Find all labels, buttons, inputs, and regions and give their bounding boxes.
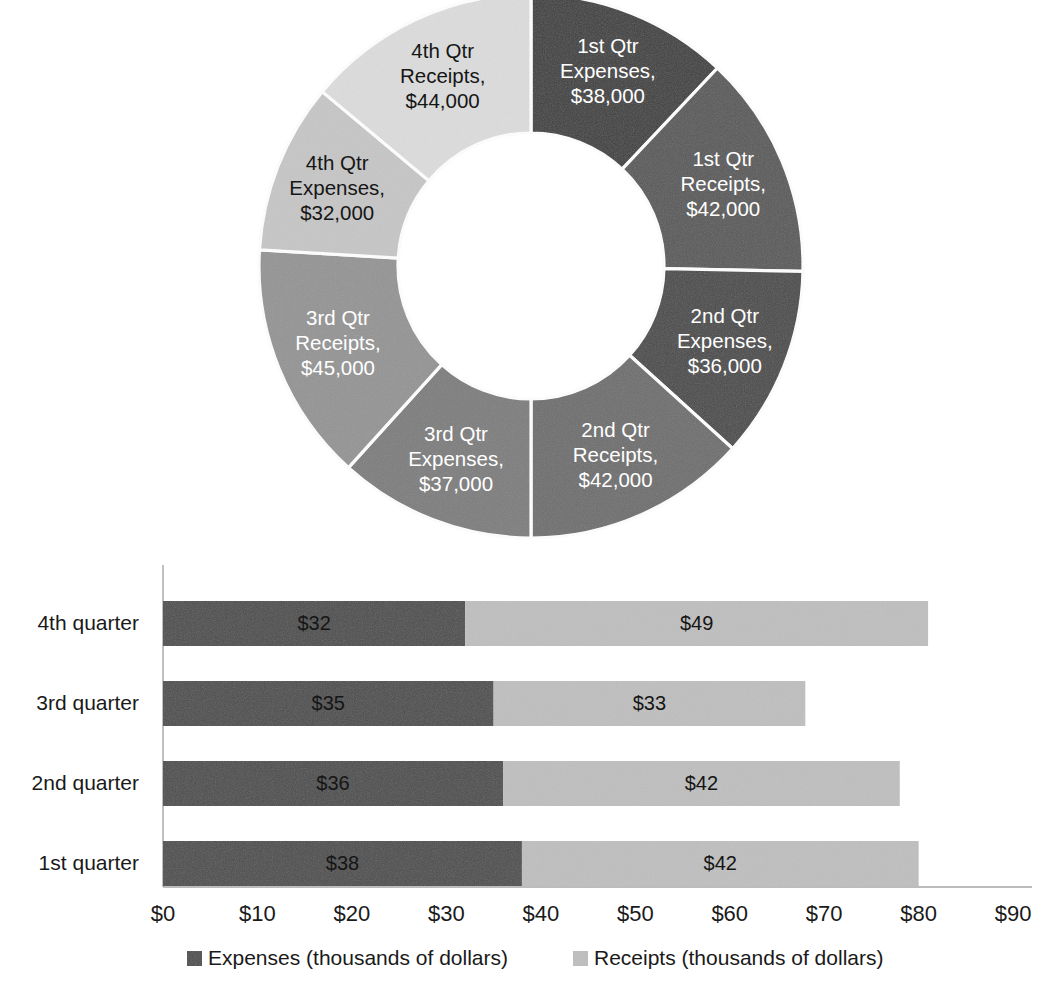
doughnut-slice-label-line: Receipts, bbox=[295, 331, 380, 354]
doughnut-slice-label-line: 3rd Qtr bbox=[424, 422, 488, 445]
category-label: 4th quarter bbox=[37, 611, 139, 634]
bar-value-label: $35 bbox=[312, 692, 345, 714]
stacked-bar-chart-svg: $38$42$36$42$35$33$32$49 1st quarter2nd … bbox=[0, 545, 1059, 995]
bar-group bbox=[163, 601, 928, 886]
legend-swatch bbox=[187, 951, 202, 966]
doughnut-slice-label-line: $38,000 bbox=[571, 84, 645, 107]
doughnut-slice-label-line: $36,000 bbox=[688, 354, 762, 377]
doughnut-slice-label-line: 4th Qtr bbox=[411, 39, 474, 62]
x-tick-label: $10 bbox=[239, 901, 276, 926]
doughnut-slice-label-line: Expenses, bbox=[289, 176, 385, 199]
category-label: 1st quarter bbox=[39, 851, 139, 874]
doughnut-slice-label: 2nd QtrExpenses,$36,000 bbox=[677, 304, 773, 377]
x-tick-label: $90 bbox=[995, 901, 1032, 926]
doughnut-slice-label: 2nd QtrReceipts,$42,000 bbox=[573, 418, 658, 491]
doughnut-slice-label-line: $37,000 bbox=[419, 472, 493, 495]
doughnut-slice-label-line: Receipts, bbox=[573, 443, 658, 466]
bar-value-label: $42 bbox=[704, 852, 737, 874]
doughnut-slice-label-line: $45,000 bbox=[301, 356, 375, 379]
x-tick-label: $60 bbox=[711, 901, 748, 926]
bar-value-label: $42 bbox=[685, 772, 718, 794]
doughnut-chart-svg: 1st QtrExpenses,$38,0001st QtrReceipts,$… bbox=[0, 0, 1059, 545]
doughnut-slice-label-line: 1st Qtr bbox=[692, 147, 754, 170]
doughnut-slice-group bbox=[259, 0, 803, 538]
x-tick-label: $80 bbox=[900, 901, 937, 926]
x-tick-label-group: $0$10$20$30$40$50$60$70$80$90 bbox=[151, 901, 1032, 926]
doughnut-slice-label-line: 3rd Qtr bbox=[306, 306, 370, 329]
x-tick-label: $40 bbox=[522, 901, 559, 926]
x-tick-label: $30 bbox=[428, 901, 465, 926]
bar-value-label-group: $38$42$36$42$35$33$32$49 bbox=[297, 612, 737, 874]
category-label: 2nd quarter bbox=[32, 771, 139, 794]
doughnut-slice-label: 3rd QtrReceipts,$45,000 bbox=[295, 306, 380, 379]
x-tick-label: $70 bbox=[806, 901, 843, 926]
doughnut-slice-label-line: $42,000 bbox=[578, 468, 652, 491]
doughnut-slice-label-line: Expenses, bbox=[408, 447, 504, 470]
bar-value-label: $33 bbox=[633, 692, 666, 714]
doughnut-slice-label-line: Expenses, bbox=[677, 329, 773, 352]
bar-value-label: $36 bbox=[316, 772, 349, 794]
category-label: 3rd quarter bbox=[36, 691, 139, 714]
doughnut-slice-label-line: $42,000 bbox=[686, 197, 760, 220]
doughnut-slice-label-line: 2nd Qtr bbox=[581, 418, 650, 441]
bar-value-label: $38 bbox=[326, 852, 359, 874]
legend-swatch bbox=[573, 951, 588, 966]
doughnut-slice-label-line: 1st Qtr bbox=[577, 34, 639, 57]
category-label-group: 1st quarter2nd quarter3rd quarter4th qua… bbox=[32, 611, 139, 874]
doughnut-slice-label-line: 2nd Qtr bbox=[691, 304, 760, 327]
doughnut-slice-label-line: Receipts, bbox=[400, 64, 485, 87]
doughnut-slice-label-line: Expenses, bbox=[560, 59, 656, 82]
bar-value-label: $32 bbox=[297, 612, 330, 634]
x-tick-label: $50 bbox=[617, 901, 654, 926]
stacked-bar-chart: $38$42$36$42$35$33$32$49 1st quarter2nd … bbox=[0, 545, 1059, 995]
doughnut-slice-label-line: Receipts, bbox=[680, 172, 765, 195]
x-tick-label: $20 bbox=[334, 901, 371, 926]
x-tick-label: $0 bbox=[151, 901, 175, 926]
chart-page: 1st QtrExpenses,$38,0001st QtrReceipts,$… bbox=[0, 0, 1059, 995]
legend: Expenses (thousands of dollars)Receipts … bbox=[187, 946, 883, 969]
doughnut-chart: 1st QtrExpenses,$38,0001st QtrReceipts,$… bbox=[0, 0, 1059, 545]
doughnut-slice-label-line: 4th Qtr bbox=[306, 151, 369, 174]
doughnut-slice-label: 1st QtrReceipts,$42,000 bbox=[680, 147, 765, 220]
doughnut-slice-label-line: $44,000 bbox=[406, 89, 480, 112]
doughnut-slice-label-line: $32,000 bbox=[300, 201, 374, 224]
doughnut-slice-label: 4th QtrReceipts,$44,000 bbox=[400, 39, 485, 112]
legend-label: Expenses (thousands of dollars) bbox=[208, 946, 508, 969]
legend-label: Receipts (thousands of dollars) bbox=[594, 946, 883, 969]
bar-value-label: $49 bbox=[680, 612, 713, 634]
